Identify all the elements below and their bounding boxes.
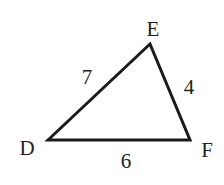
triangle-def <box>48 44 190 140</box>
vertex-label-f: F <box>201 138 213 162</box>
side-label-ef: 4 <box>184 75 195 99</box>
triangle-diagram: D E F 7 4 6 <box>0 0 224 185</box>
side-label-de: 7 <box>82 65 93 89</box>
vertex-label-d: D <box>19 136 34 160</box>
vertex-label-e: E <box>147 17 160 41</box>
side-label-df: 6 <box>121 149 132 173</box>
